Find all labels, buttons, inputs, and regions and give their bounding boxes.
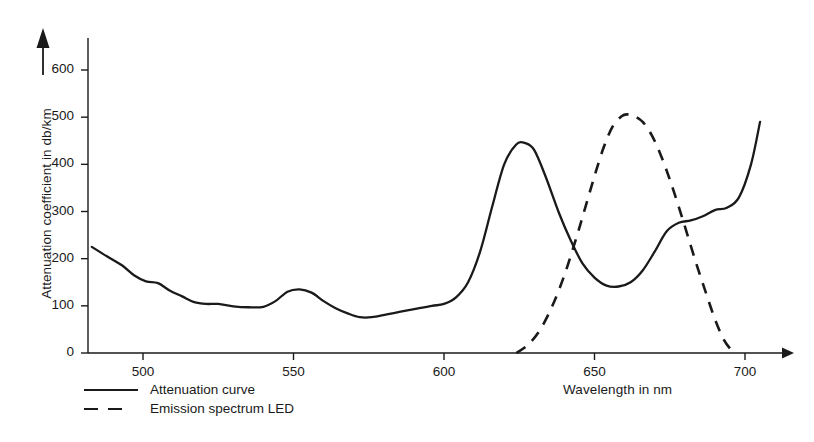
legend-dashed-line-swatch	[84, 402, 138, 416]
x-tick-label: 650	[565, 364, 625, 379]
y-tick-label: 100	[28, 297, 74, 312]
y-tick-label: 300	[28, 203, 74, 218]
legend-label-emission-spectrum-led: Emission spectrum LED	[150, 401, 294, 416]
y-tick-label: 500	[28, 108, 74, 123]
legend: Attenuation curve Emission spectrum LED	[84, 380, 294, 418]
series-group	[92, 114, 760, 353]
y-tick-label: 600	[28, 61, 74, 76]
y-tick-label: 200	[28, 250, 74, 265]
y-tick-label: 400	[28, 155, 74, 170]
x-tick-label: 550	[264, 364, 324, 379]
y-tick-marks	[81, 70, 88, 353]
x-axis-arrow-icon	[782, 348, 794, 359]
led-emission-curve-path	[516, 114, 733, 353]
axes-group	[37, 28, 795, 360]
legend-label-attenuation-curve: Attenuation curve	[150, 382, 255, 397]
x-tick-label: 500	[113, 364, 173, 379]
attenuation-spectrum-figure: Attenuation coefficient in db/km Wavelen…	[0, 0, 814, 442]
x-tick-label: 700	[715, 364, 775, 379]
x-tick-marks	[143, 353, 745, 360]
x-tick-label: 600	[414, 364, 474, 379]
legend-item-attenuation-curve: Attenuation curve	[84, 380, 294, 399]
y-tick-label: 0	[28, 344, 74, 359]
x-axis-title: Wavelength in nm	[563, 382, 672, 397]
y-axis-arrow-icon	[37, 28, 50, 48]
legend-solid-line-swatch	[84, 383, 138, 397]
legend-item-emission-spectrum-led: Emission spectrum LED	[84, 399, 294, 418]
